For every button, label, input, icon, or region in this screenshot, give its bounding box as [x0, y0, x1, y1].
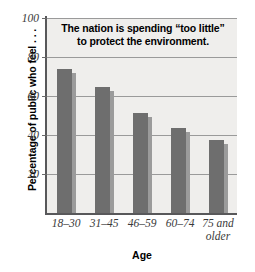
y-tick-mark-20	[42, 174, 47, 175]
bar-shadow	[224, 144, 228, 213]
x-tick-label-line-1: 31–45	[90, 217, 119, 229]
chart-title-line-2: to protect the environment.	[53, 35, 233, 48]
x-tick-label-line-1: 46–59	[128, 217, 157, 229]
bar-shadow	[186, 132, 190, 213]
bar-shadow	[148, 117, 152, 213]
y-tick-label-100: 100	[22, 12, 39, 24]
y-tick-label-40: 40	[28, 129, 40, 141]
y-tick-mark-60	[42, 96, 47, 97]
bar-face	[57, 69, 72, 213]
bar	[171, 128, 190, 213]
bar-face	[171, 128, 186, 213]
bar	[133, 113, 152, 213]
bar-chart-figure: Percentage of public who feel . . . The …	[0, 0, 255, 272]
y-tick-label-60: 60	[28, 90, 40, 102]
x-tick-label: 75 andolder	[199, 217, 237, 243]
x-tick-label-line-2: older	[199, 230, 237, 243]
bar	[209, 140, 228, 213]
x-tick-label-line-1: 18–30	[52, 217, 81, 229]
plot-area: The nation is spending “too little” to p…	[47, 18, 237, 213]
x-tick-label: 18–30	[47, 217, 85, 230]
bar-face	[209, 140, 224, 213]
x-axis-title: Age	[47, 249, 237, 261]
chart-title: The nation is spending “too little” to p…	[53, 22, 233, 47]
bar	[57, 69, 76, 213]
gridline-60	[47, 96, 237, 97]
gridline-80	[47, 57, 237, 58]
x-tick-label-line-1: 75 and	[202, 217, 234, 229]
y-tick-mark-100	[42, 18, 47, 19]
bar-shadow	[72, 73, 76, 213]
x-tick-label: 60–74	[161, 217, 199, 230]
gridline-100	[47, 18, 237, 19]
y-tick-label-80: 80	[28, 51, 40, 63]
bar	[95, 87, 114, 213]
chart-title-line-1: The nation is spending “too little”	[53, 22, 233, 35]
bar-face	[133, 113, 148, 213]
bar-shadow	[110, 91, 114, 213]
y-tick-mark-40	[42, 135, 47, 136]
x-tick-label: 31–45	[85, 217, 123, 230]
y-tick-label-20: 20	[28, 168, 40, 180]
bar-face	[95, 87, 110, 213]
x-tick-label: 46–59	[123, 217, 161, 230]
y-tick-mark-80	[42, 57, 47, 58]
x-tick-label-line-1: 60–74	[166, 217, 195, 229]
